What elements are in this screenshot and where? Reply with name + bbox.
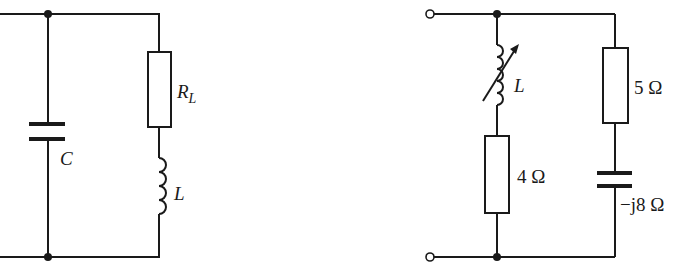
resistor-5ohm <box>603 48 628 123</box>
inductor-label: L <box>173 183 185 204</box>
left-circuit: C RL L <box>0 10 197 261</box>
resistor-4ohm-label: 4 Ω <box>517 166 545 187</box>
junction-dot-bottom <box>44 253 52 261</box>
resistor-rl <box>148 52 171 127</box>
right-circuit: L 4 Ω 5 Ω −j8 Ω <box>426 10 664 261</box>
resistor-4ohm <box>485 136 509 213</box>
variable-inductor-label: L <box>513 75 525 96</box>
resistor-rl-label: RL <box>176 81 197 106</box>
junction-dot-top <box>493 10 501 18</box>
junction-dot-top <box>44 10 52 18</box>
circuit-diagrams: C RL L L 4 Ω 5 Ω −j8 Ω <box>0 0 681 272</box>
junction-dot-bottom <box>493 253 501 261</box>
terminal-bottom <box>426 253 434 261</box>
capacitor-label: −j8 Ω <box>620 194 664 215</box>
capacitor-label: C <box>60 148 73 169</box>
variable-arrow-head-icon <box>510 44 519 54</box>
resistor-5ohm-label: 5 Ω <box>634 77 662 98</box>
terminal-top <box>426 10 434 18</box>
inductor-l <box>159 158 166 214</box>
